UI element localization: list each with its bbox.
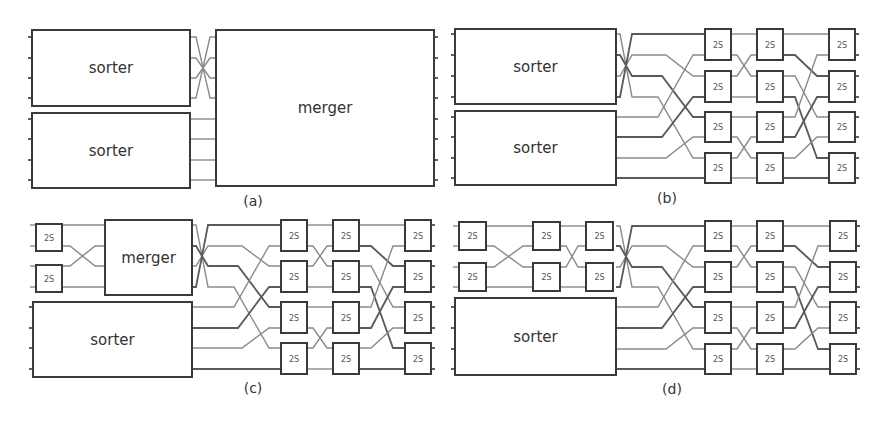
wire [486, 246, 533, 267]
comparator-label: 2S [541, 232, 551, 241]
comparator-label: 2S [837, 41, 847, 50]
comparator-label: 2S [838, 232, 848, 241]
wire [307, 246, 333, 266]
comparator-label: 2S [765, 232, 775, 241]
sorter-label: sorter [89, 59, 134, 77]
comparator-label: 2S [467, 232, 477, 241]
sorter-label: sorter [513, 328, 558, 346]
comparator-label: 2S [413, 314, 423, 323]
wire [307, 328, 333, 348]
wire [731, 55, 757, 76]
comparator-label: 2S [289, 232, 299, 241]
wire [190, 37, 216, 98]
panel-caption-d: (d) [662, 381, 682, 397]
panel-caption-a: (a) [243, 193, 263, 209]
sorter-label: sorter [513, 139, 558, 157]
merger-label: merger [121, 249, 176, 267]
comparator-label: 2S [413, 273, 423, 282]
comparator-label: 2S [467, 273, 477, 282]
comparator-label: 2S [765, 314, 775, 323]
comparator-label: 2S [765, 164, 775, 173]
wire [783, 97, 829, 158]
sorter-label: sorter [513, 58, 558, 76]
wire [359, 246, 405, 266]
comparator-label: 2S [541, 273, 551, 282]
comparator-label: 2S [594, 232, 604, 241]
comparator-label: 2S [413, 355, 423, 364]
wire [616, 226, 705, 287]
sorting-network-figure: (a)sortersortermerger(b)sortersorter2S2S… [0, 0, 891, 425]
panel-caption-c: (c) [244, 380, 263, 396]
comparator-label: 2S [44, 234, 54, 243]
wire [62, 246, 105, 266]
comparator-label: 2S [837, 83, 847, 92]
comparator-label: 2S [289, 314, 299, 323]
sorter-label: sorter [90, 331, 135, 349]
comparator-label: 2S [838, 273, 848, 282]
wire [731, 246, 757, 267]
wire [783, 246, 830, 307]
comparator-label: 2S [713, 123, 723, 132]
comparator-label: 2S [837, 164, 847, 173]
comparator-label: 2S [765, 123, 775, 132]
sorter-label: sorter [89, 142, 134, 160]
wire [731, 137, 757, 158]
comparator-label: 2S [838, 355, 848, 364]
comparator-label: 2S [413, 232, 423, 241]
comparator-label: 2S [713, 83, 723, 92]
wire [783, 137, 829, 158]
panel-caption-b: (b) [657, 190, 677, 206]
comparator-label: 2S [765, 41, 775, 50]
wire [560, 246, 586, 267]
comparator-label: 2S [289, 273, 299, 282]
comparator-label: 2S [44, 275, 54, 284]
comparator-label: 2S [289, 355, 299, 364]
wire [192, 225, 281, 287]
comparator-label: 2S [341, 273, 351, 282]
wire [359, 328, 405, 348]
comparator-label: 2S [837, 123, 847, 132]
wire [783, 246, 830, 267]
wire [783, 55, 829, 76]
comparator-label: 2S [713, 232, 723, 241]
wire [731, 328, 757, 349]
comparator-label: 2S [341, 314, 351, 323]
wire [560, 246, 586, 267]
wire [783, 287, 830, 349]
comparator-label: 2S [713, 355, 723, 364]
comparator-label: 2S [341, 232, 351, 241]
comparator-label: 2S [594, 273, 604, 282]
merger-label: merger [298, 99, 353, 117]
comparator-label: 2S [713, 41, 723, 50]
comparator-label: 2S [765, 83, 775, 92]
comparator-label: 2S [713, 314, 723, 323]
comparator-label: 2S [713, 164, 723, 173]
wire [783, 328, 830, 349]
comparator-label: 2S [765, 273, 775, 282]
boxes-layer [28, 29, 860, 377]
comparator-label: 2S [838, 314, 848, 323]
comparator-label: 2S [341, 355, 351, 364]
comparator-label: 2S [713, 273, 723, 282]
wire [616, 34, 705, 97]
comparator-label: 2S [765, 355, 775, 364]
